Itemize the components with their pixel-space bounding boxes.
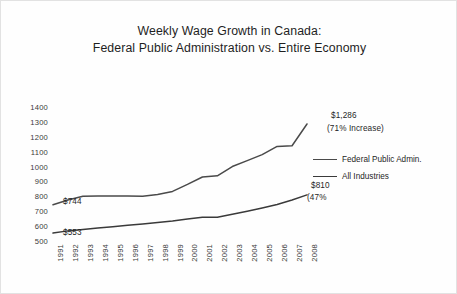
y-axis-tick-label: 600: [35, 222, 48, 231]
y-axis-tick-label: 1300: [30, 117, 48, 126]
annotation-all-industries-start: $553: [63, 228, 82, 237]
x-axis-tick-label: 1993: [86, 244, 95, 262]
legend-item-federal-public-admin: Federal Public Admin.: [313, 153, 453, 166]
annotation-federal-end-percent: (71% Increase): [327, 124, 384, 133]
chart-title-block: Weekly Wage Growth in Canada: Federal Pu…: [1, 23, 457, 57]
page-subtitle: Federal Public Administration vs. Entire…: [1, 40, 457, 57]
line-all-industries: [53, 195, 307, 233]
x-axis-tick-label: 2004: [250, 244, 259, 262]
y-axis-tick-label: 1000: [30, 162, 48, 171]
x-axis-tick-label: 2008: [310, 244, 319, 262]
legend-swatch-icon: [313, 176, 337, 177]
y-axis-tick-label: 900: [35, 177, 48, 186]
x-axis-tick-label: 2001: [205, 244, 214, 262]
y-axis-tick-label: 1200: [30, 132, 48, 141]
line-federal-public-admin: [53, 124, 307, 205]
page-title: Weekly Wage Growth in Canada:: [1, 23, 457, 40]
x-axis-tick-label: 1992: [71, 244, 80, 262]
y-axis-tick-label: 800: [35, 192, 48, 201]
y-axis-tick-label: 700: [35, 207, 48, 216]
legend-label: Federal Public Admin.: [342, 155, 422, 164]
x-axis-tick-label: 1997: [146, 244, 155, 262]
x-axis-tick-label: 2006: [280, 244, 289, 262]
x-axis-tick-label: 2000: [190, 244, 199, 262]
x-axis-tick-label: 1995: [116, 244, 125, 262]
x-axis-tick-label: 2002: [220, 244, 229, 262]
y-axis-tick-label: 1400: [30, 103, 48, 112]
x-axis-tick-label: 1991: [56, 244, 65, 262]
annotation-federal-start: $744: [63, 197, 82, 206]
x-axis-tick-label: 1999: [176, 244, 185, 262]
annotation-all-industries-end-percent: (47%: [307, 193, 327, 202]
y-axis-tick-label: 1100: [31, 147, 48, 156]
series-lines: [53, 107, 317, 241]
legend-swatch-icon: [313, 159, 337, 160]
x-axis-tick-label: 2007: [295, 244, 304, 262]
legend-label: All Industries: [342, 172, 389, 181]
y-axis-tick-label: 500: [35, 237, 48, 246]
x-axis-tick-label: 1996: [131, 244, 140, 262]
chart-legend: Federal Public Admin. All Industries: [313, 153, 453, 187]
x-axis-tick-label: 1994: [101, 244, 110, 262]
legend-item-all-industries: All Industries: [313, 170, 453, 183]
x-axis-tick-label: 2003: [235, 244, 244, 262]
x-axis-tick-label: 2005: [265, 244, 274, 262]
x-axis-tick-label: 1998: [161, 244, 170, 262]
annotation-federal-end-value: $1,286: [331, 111, 357, 120]
plot-area: 14001300120011001000900800700600500 1991…: [53, 107, 317, 241]
chart-frame: Weekly Wage Growth in Canada: Federal Pu…: [0, 0, 457, 294]
